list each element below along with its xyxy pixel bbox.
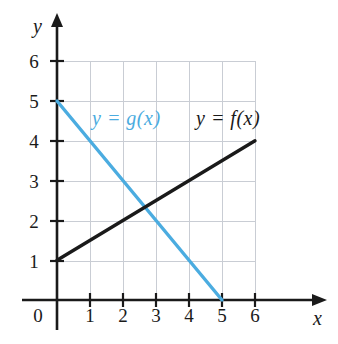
y-tick-label-5: 5 <box>26 92 42 111</box>
label-g-of-x: y = g(x) <box>92 108 161 128</box>
line-g-of-x <box>57 101 222 300</box>
x-tick-label-2: 2 <box>115 306 131 325</box>
y-axis-label: y <box>33 16 42 36</box>
origin-tick-label: 0 <box>30 306 46 325</box>
x-tick-label-4: 4 <box>181 306 197 325</box>
x-axis-label: x <box>313 308 322 328</box>
x-tick-label-3: 3 <box>148 306 164 325</box>
y-tick-label-4: 4 <box>26 132 42 151</box>
y-tick-label-6: 6 <box>26 52 42 71</box>
x-tick-label-6: 6 <box>247 306 263 325</box>
coordinate-plot <box>0 0 338 344</box>
graph-figure: y x 0 6 5 4 3 2 1 1 2 3 4 5 6 y = g(x) y… <box>0 0 338 344</box>
y-tick-label-2: 2 <box>26 212 42 231</box>
label-f-of-x: y = f(x) <box>196 108 260 128</box>
x-tick-label-5: 5 <box>214 306 230 325</box>
x-axis <box>22 294 327 306</box>
x-tick-label-1: 1 <box>82 306 98 325</box>
y-tick-label-1: 1 <box>26 252 42 271</box>
y-tick-label-3: 3 <box>26 172 42 191</box>
